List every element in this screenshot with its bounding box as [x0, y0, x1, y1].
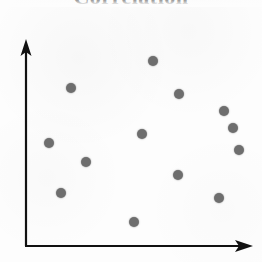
data-point [56, 188, 66, 198]
data-point [66, 83, 76, 93]
data-point [137, 129, 147, 139]
data-point [174, 89, 184, 99]
scatter-plot-figure: Correlation [0, 0, 262, 262]
data-point [228, 123, 238, 133]
data-point [234, 145, 244, 155]
data-point [129, 217, 139, 227]
data-point [173, 170, 183, 180]
data-point [148, 56, 158, 66]
data-point [219, 106, 229, 116]
data-point [44, 138, 54, 148]
data-point [214, 193, 224, 203]
data-point [81, 157, 91, 167]
